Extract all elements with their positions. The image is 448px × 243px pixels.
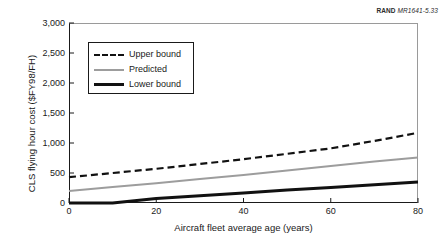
x-axis-title: Aircraft fleet average age (years) xyxy=(69,222,418,233)
dashed-line-key xyxy=(94,49,124,60)
legend-item-lower-bound: Lower bound xyxy=(94,77,188,92)
legend-label-lower-bound: Lower bound xyxy=(129,79,181,90)
series-line-upper-bound xyxy=(69,133,418,177)
series-lines-layer xyxy=(0,0,448,243)
legend-item-predicted: Predicted xyxy=(94,62,188,77)
legend-label-predicted: Predicted xyxy=(129,64,167,75)
legend-item-upper-bound: Upper bound xyxy=(94,47,188,62)
y-axis-title-holder: CLS flying hour cost ($FY98/FH) xyxy=(8,18,22,208)
legend-box: Upper bound Predicted Lower bound xyxy=(88,42,194,94)
solid-line-key xyxy=(94,79,124,90)
y-axis-title: CLS flying hour cost ($FY98/FH) xyxy=(26,29,37,219)
gray-line-key xyxy=(94,64,124,75)
legend-label-upper-bound: Upper bound xyxy=(129,49,181,60)
figure-root: RAND MR1641-5.33 05001,0001,5002,0002,50… xyxy=(0,0,448,243)
